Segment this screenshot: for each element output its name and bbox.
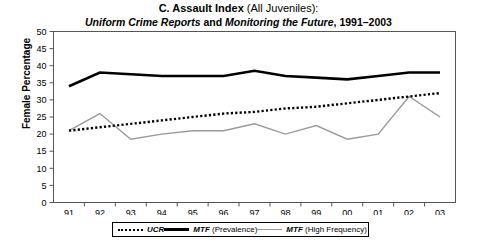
x-axis-ticks: 91929394959697989900010203 — [64, 203, 445, 216]
legend-label-mtf-prevalence: MTF (Prevalence) — [193, 225, 257, 234]
plot-frame — [54, 32, 456, 203]
x-tick-label: 92 — [95, 208, 105, 216]
x-tick-label: 97 — [249, 208, 259, 216]
y-tick-label: 0 — [41, 198, 46, 208]
x-tick-label: 99 — [311, 208, 321, 216]
x-tick-label: 01 — [373, 208, 383, 216]
y-tick-label: 25 — [36, 112, 46, 122]
y-tick-label: 5 — [41, 181, 46, 191]
gray-line-key-icon — [257, 229, 282, 230]
legend-label-mtf-high-frequency-rest: (High Frequency) — [303, 225, 367, 234]
x-tick-label: 00 — [342, 208, 352, 216]
x-tick-label: 02 — [404, 208, 414, 216]
x-tick-label: 93 — [126, 208, 136, 216]
legend-label-ucr: UCR — [147, 225, 164, 234]
y-tick-label: 35 — [36, 78, 46, 88]
x-tick-label: 95 — [188, 208, 198, 216]
y-tick-label: 15 — [36, 146, 46, 156]
x-tick-label: 91 — [64, 208, 74, 216]
legend-item-mtf-prevalence: MTF (Prevalence) — [164, 225, 257, 234]
legend-label-ucr-italic: UCR — [147, 225, 164, 234]
y-tick-label: 30 — [36, 95, 46, 105]
legend-item-ucr: UCR — [118, 225, 164, 234]
chart-figure: C. Assault Index (All Juveniles): Unifor… — [0, 0, 477, 247]
y-tick-label: 40 — [36, 61, 46, 71]
plot-area: 50454035302520151050 9192939495969798990… — [0, 0, 477, 215]
y-tick-label: 20 — [36, 129, 46, 139]
legend-label-mtf-high-frequency-italic: MTF — [286, 225, 302, 234]
legend-label-mtf-prevalence-rest: (Prevalence) — [210, 225, 258, 234]
dotted-line-key-icon — [118, 229, 143, 231]
y-tick-label: 10 — [36, 164, 46, 174]
thick-black-line-key-icon — [164, 228, 189, 231]
x-tick-label: 98 — [280, 208, 290, 216]
legend-label-mtf-high-frequency: MTF (High Frequency) — [286, 225, 366, 234]
x-tick-label: 96 — [219, 208, 229, 216]
y-tick-label: 50 — [36, 27, 46, 37]
x-tick-label: 03 — [435, 208, 445, 216]
y-tick-label: 45 — [36, 44, 46, 54]
chart-legend: UCR MTF (Prevalence) MTF (High Frequency… — [112, 222, 369, 237]
x-tick-label: 94 — [157, 208, 167, 216]
legend-label-mtf-prevalence-italic: MTF — [193, 225, 209, 234]
y-axis-ticks: 50454035302520151050 — [36, 27, 53, 208]
legend-item-mtf-high-frequency: MTF (High Frequency) — [257, 225, 366, 234]
